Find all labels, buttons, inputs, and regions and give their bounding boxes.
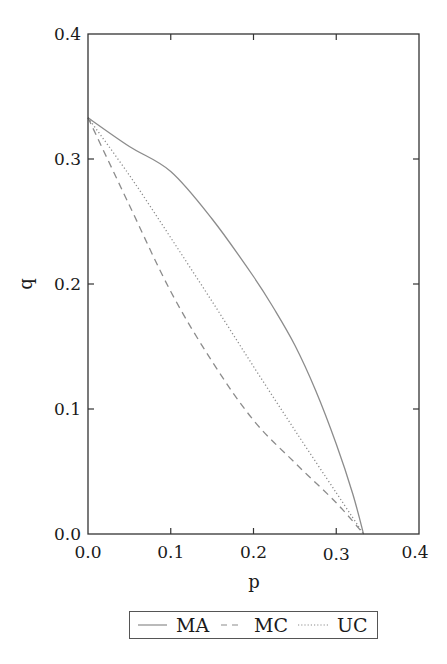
y-tick-labels: 0.0 0.1 0.2 0.3 0.4 xyxy=(54,24,81,544)
y-tick-label: 0.3 xyxy=(54,149,81,169)
x-tick-label: 0.1 xyxy=(157,542,184,562)
series-line-mc xyxy=(88,118,364,534)
plot-frame xyxy=(88,34,419,534)
x-tick-label: 0.3 xyxy=(323,544,350,564)
y-axis-label: q xyxy=(15,278,36,290)
series-line-ma xyxy=(88,118,364,534)
line-chart: 0.0 0.1 0.2 0.3 0.4 0.0 0.1 0.2 0.3 0.4 … xyxy=(0,0,447,664)
ticks-layer xyxy=(88,34,419,534)
y-tick-label: 0.2 xyxy=(54,274,81,294)
x-tick-label: 0.4 xyxy=(401,542,428,562)
legend-label-ma: MA xyxy=(176,614,209,636)
x-tick-label: 0.2 xyxy=(240,542,267,562)
legend-label-mc: MC xyxy=(254,614,288,636)
x-tick-label: 0.0 xyxy=(74,542,101,562)
y-tick-label: 0.1 xyxy=(54,399,81,419)
x-axis-label: p xyxy=(248,571,260,592)
y-tick-label: 0.4 xyxy=(54,24,81,44)
x-tick-labels: 0.0 0.1 0.2 0.3 0.4 xyxy=(74,542,428,564)
series-layer xyxy=(88,118,364,534)
series-line-uc xyxy=(88,118,364,534)
y-tick-label: 0.0 xyxy=(54,524,81,544)
legend-label-uc: UC xyxy=(337,614,368,636)
legend: MA MC UC xyxy=(130,612,378,639)
